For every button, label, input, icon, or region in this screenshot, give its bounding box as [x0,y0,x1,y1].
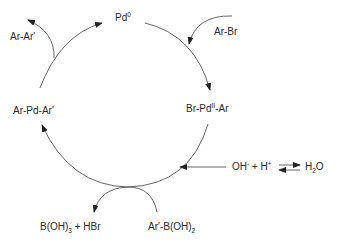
pd-complex-suffix: -Ar [215,103,228,114]
label-water: H2O [305,161,324,173]
label-base-equilibrium: OH- + H+ [232,161,272,173]
boronic-acid-text: Ar'-B(OH) [148,221,192,232]
label-boronic-acid: Ar'-B(OH)2 [148,221,195,233]
arc-reductive-elimination [40,23,102,88]
proton-text: H [261,161,268,172]
cycle-arrows [0,0,346,243]
suzuki-cycle-diagram: Pd0 Ar-Ar' Ar-Br Br-PdII-Ar Ar-Pd-Ar' OH… [0,0,346,243]
label-byproduct: B(OH)3 + HBr [40,221,101,233]
pd0-oxidation-state: 0 [127,11,131,18]
node-transmetalation-product: Ar-Pd-Ar' [13,105,54,117]
hydroxide-text: OH [232,161,247,172]
boronic-acid-subscript: 2 [192,227,196,234]
node-oxidative-addition-product: Br-PdII-Ar [186,103,229,115]
label-product: Ar-Ar' [10,31,35,43]
plus-sign: + [249,161,260,172]
arrow-boronic-in [94,187,157,212]
proton-charge: + [268,160,272,167]
water-o: O [316,161,324,172]
arc-oxidative-addition [145,23,210,90]
label-aryl-bromide: Ar-Br [214,26,237,38]
node-pd0: Pd0 [115,12,131,24]
boric-acid-text: B(OH) [40,221,68,232]
hbr-text: + HBr [72,221,101,232]
pd0-text: Pd [115,12,127,23]
arc-transmetalation [42,124,208,187]
pd-complex-prefix: Br-Pd [186,103,212,114]
